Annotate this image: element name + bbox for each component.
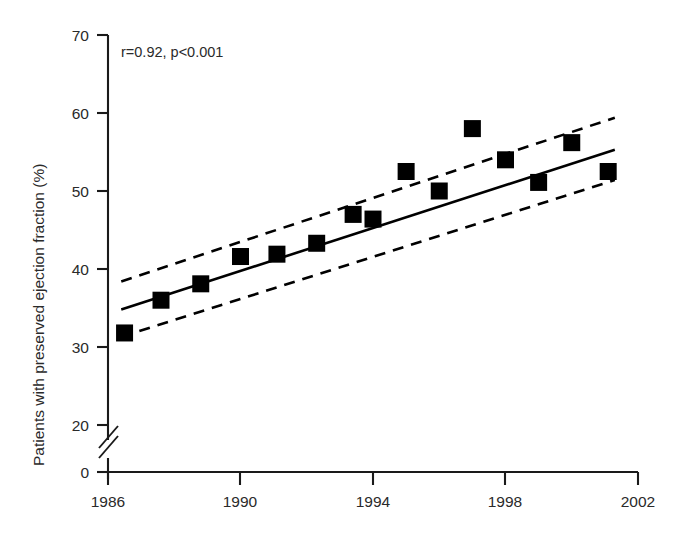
data-point-marker: [431, 183, 448, 200]
data-point-marker: [365, 211, 382, 228]
data-point-marker: [232, 248, 249, 265]
y-tick-label-60: 60: [72, 105, 90, 122]
data-point-marker: [345, 206, 362, 223]
y-tick-label-50: 50: [72, 183, 90, 200]
x-tick-label-2002: 2002: [621, 493, 655, 510]
y-tick-label-40: 40: [72, 261, 90, 278]
y-tick-label-0: 0: [80, 464, 89, 481]
data-point-marker: [192, 275, 209, 292]
y-tick-label-70: 70: [72, 27, 90, 44]
upper-confidence-band-line: [121, 118, 615, 282]
data-point-marker: [600, 163, 617, 180]
ci-upper-segment: [121, 118, 615, 282]
x-tick-label-1998: 1998: [488, 493, 522, 510]
x-tick-label-1986: 1986: [91, 493, 125, 510]
x-tick-label-1990: 1990: [223, 493, 258, 510]
data-point-marker: [153, 292, 170, 309]
data-point-marker: [308, 235, 325, 252]
x-tick-label-1994: 1994: [356, 493, 391, 510]
data-point-marker: [497, 151, 514, 168]
data-point-marker: [563, 134, 580, 151]
correlation-annotation: r=0.92, p<0.001: [121, 44, 223, 60]
y-axis-tick-labels: 70 60 50 40 30 20 0: [72, 27, 90, 481]
data-point-marker: [530, 174, 547, 191]
ci-lower-segment: [121, 180, 615, 337]
data-point-marker: [116, 324, 133, 341]
y-tick-label-30: 30: [72, 339, 90, 356]
data-point-marker: [464, 120, 481, 137]
scatter-plot-svg: Patients with preserved ejection fractio…: [0, 0, 685, 535]
data-point-marker: [398, 163, 415, 180]
x-axis-ticks: [108, 472, 638, 485]
chart-figure: Patients with preserved ejection fractio…: [0, 0, 685, 535]
y-axis-ticks: [97, 35, 108, 472]
y-axis-title: Patients with preserved ejection fractio…: [30, 164, 47, 466]
x-axis-tick-labels: 1986 1990 1994 1998 2002: [91, 493, 655, 510]
lower-confidence-band-line: [121, 180, 615, 337]
y-tick-label-20: 20: [72, 417, 90, 434]
data-point-marker: [268, 246, 285, 263]
